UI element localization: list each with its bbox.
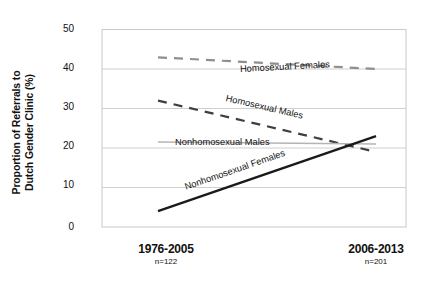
plot-frame	[102, 30, 406, 228]
series-label-nonhomosexual-males: Nonhomosexual Males	[175, 137, 270, 147]
x-category-1976-2005-n: n=122	[106, 257, 226, 267]
series-line-nonhomosexual-females	[158, 136, 376, 211]
x-category-1976-2005: 1976-2005 n=122	[106, 242, 226, 267]
x-category-2006-2013-name: 2006-2013	[316, 242, 436, 256]
x-category-2006-2013: 2006-2013 n=201	[316, 242, 436, 267]
chart-container: Proportion of Referrals to Dutch Gender …	[0, 0, 440, 286]
x-category-1976-2005-name: 1976-2005	[106, 242, 226, 256]
x-category-2006-2013-n: n=201	[316, 257, 436, 267]
